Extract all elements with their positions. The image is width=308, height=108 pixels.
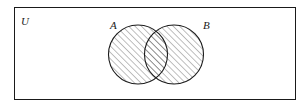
- set-b-label: B: [203, 19, 210, 31]
- set-a-label: A: [109, 19, 117, 31]
- venn-diagram-canvas: U A B: [0, 0, 308, 108]
- universe-label: U: [21, 15, 30, 27]
- venn-diagram-figure: U A B: [0, 0, 308, 108]
